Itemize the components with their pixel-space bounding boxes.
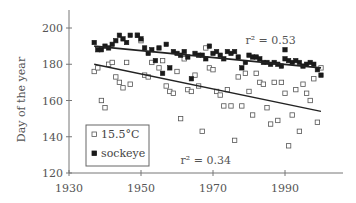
legend-label: sockeye — [101, 147, 145, 160]
filled-square-point — [124, 40, 128, 44]
open-square-point — [124, 60, 128, 64]
open-square-point — [160, 58, 164, 62]
open-square-point — [171, 91, 175, 95]
filled-square-point — [283, 48, 287, 52]
open-square-point — [211, 67, 215, 71]
y-tick-label: 180 — [42, 58, 63, 71]
open-square-point — [265, 106, 269, 110]
legend-label: 15.5°C — [101, 128, 139, 141]
open-square-point — [189, 89, 193, 93]
open-square-point — [247, 89, 251, 93]
y-tick-label: 120 — [42, 167, 63, 180]
y-tick-label: 200 — [42, 22, 63, 35]
filled-square-point — [92, 40, 96, 44]
open-square-point — [229, 104, 233, 108]
open-square-point — [178, 116, 182, 120]
filled-square-point — [182, 49, 186, 53]
open-square-point — [254, 71, 258, 75]
x-tick-label: 1990 — [271, 182, 299, 195]
open-square-point — [218, 93, 222, 97]
open-square-point — [294, 87, 298, 91]
filled-square-point — [312, 62, 316, 66]
open-square-point — [103, 106, 107, 110]
open-square-point — [110, 60, 114, 64]
filled-square-point — [232, 49, 236, 53]
open-square-point — [279, 80, 283, 84]
filled-square-point — [168, 66, 172, 70]
filled-square-point — [139, 37, 143, 41]
legend: 15.5°Csockeye — [86, 125, 149, 166]
x-tick-label: 1930 — [55, 182, 83, 195]
filled-square-point — [114, 38, 118, 42]
open-square-point — [301, 82, 305, 86]
open-square-point — [304, 91, 308, 95]
open-square-point — [117, 80, 121, 84]
filled-square-point — [157, 46, 161, 50]
legend-open-square-icon — [92, 132, 97, 137]
open-square-point — [272, 80, 276, 84]
filled-square-point — [240, 66, 244, 70]
open-square-point — [96, 66, 100, 70]
y-axis-title: Day of the year — [15, 56, 28, 142]
open-square-point — [261, 82, 265, 86]
filled-square-point — [164, 42, 168, 46]
open-square-point — [243, 71, 247, 75]
open-square-point — [250, 113, 254, 117]
filled-square-point — [128, 33, 132, 37]
filled-square-point — [207, 44, 211, 48]
open-square-point — [128, 82, 132, 86]
open-square-point — [240, 104, 244, 108]
open-square-point — [290, 113, 294, 117]
open-square-point — [308, 98, 312, 102]
y-tick-label: 160 — [42, 95, 63, 108]
y-tick-label: 140 — [42, 131, 63, 144]
scatter-chart: 1201401601802001930195019701990Day of th… — [0, 0, 356, 203]
regression-line — [94, 64, 321, 111]
regression-lines — [94, 46, 321, 111]
open-square-point — [297, 129, 301, 133]
open-square-point — [164, 84, 168, 88]
filled-square-point — [319, 73, 323, 77]
open-square-point — [121, 86, 125, 90]
open-square-point — [268, 122, 272, 126]
open-square-point — [222, 104, 226, 108]
open-square-point — [175, 69, 179, 73]
legend-filled-square-icon — [92, 151, 97, 156]
filled-square-point — [189, 77, 193, 81]
r-squared-label: r² = 0.34 — [181, 154, 231, 167]
open-square-point — [283, 91, 287, 95]
open-square-point — [114, 75, 118, 79]
open-square-point — [276, 118, 280, 122]
filled-square-point — [142, 46, 146, 50]
x-tick-label: 1970 — [199, 182, 227, 195]
open-square-point — [99, 98, 103, 102]
filled-square-point — [160, 71, 164, 75]
open-square-point — [236, 75, 240, 79]
x-tick-label: 1950 — [127, 182, 155, 195]
open-square-point — [232, 138, 236, 142]
open-square-point — [157, 66, 161, 70]
open-square-point — [315, 120, 319, 124]
filled-square-point — [236, 55, 240, 59]
open-square-point — [286, 144, 290, 148]
filled-square-point — [153, 58, 157, 62]
open-square-point — [200, 129, 204, 133]
open-square-point — [312, 77, 316, 81]
r-squared-label: r² = 0.53 — [245, 34, 295, 47]
